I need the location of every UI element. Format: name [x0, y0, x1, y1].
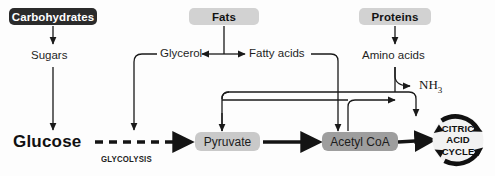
arrow-amino-acids-to-ammonia — [395, 67, 410, 86]
rail-upper-to-citric-acid-cycle — [222, 92, 416, 131]
source-label-carbohydrates: Carbohydrates — [12, 11, 94, 23]
arrow-acetyl-coa-to-cycle — [398, 140, 432, 142]
rail-upper-corner-left — [222, 92, 229, 99]
hub-glucose: Glucose — [13, 133, 81, 150]
source-label-proteins: Proteins — [372, 11, 419, 23]
hub-label-pyruvate: Pyruvate — [204, 135, 251, 149]
hub-pyruvate[interactable]: Pyruvate — [195, 132, 260, 151]
pathway-label-glycolysis: GLYCOLYSIS — [101, 155, 152, 164]
hub-acetyl-coa[interactable]: Acetyl CoA — [322, 132, 398, 151]
source-box-carbohydrates[interactable]: Carbohydrates — [9, 8, 97, 25]
hub-label-acetyl-coa: Acetyl CoA — [330, 135, 389, 149]
label-fatty-acids: Fatty acids — [249, 48, 305, 60]
label-ammonia: NH3 — [419, 78, 442, 95]
source-box-proteins[interactable]: Proteins — [359, 8, 431, 25]
source-label-fats: Fats — [212, 11, 236, 23]
citric-acid-cycle-ring — [433, 115, 484, 166]
label-glycerol: Glycerol — [160, 48, 202, 60]
label-amino-acids: Amino acids — [362, 50, 425, 62]
ammonia-formula: NH — [419, 77, 438, 92]
ammonia-subscript: 3 — [438, 85, 443, 95]
rail-lower-to-acetyl-coa — [348, 100, 395, 131]
source-box-fats[interactable]: Fats — [189, 8, 259, 25]
metabolic-pathway-diagram: Carbohydrates Fats Proteins Sugars Glyce… — [0, 0, 495, 176]
arrow-glycerol-to-glycolysis — [134, 54, 157, 130]
label-sugars: Sugars — [31, 50, 67, 62]
